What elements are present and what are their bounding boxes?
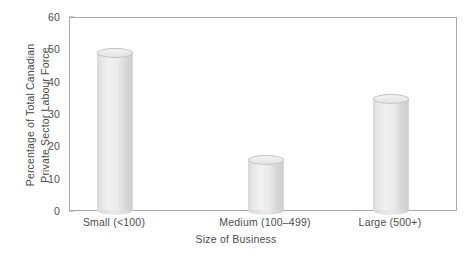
x-tick-label-small: Small (<100) (83, 216, 145, 228)
x-tick-label-large: Large (500+) (359, 216, 422, 228)
bar-medium (248, 155, 284, 210)
x-axis-title: Size of Business (0, 233, 472, 245)
y-tick-label-60: 60 (16, 11, 60, 23)
x-tick-label-medium: Medium (100–499) (219, 216, 310, 228)
y-tick-label-30: 30 (16, 108, 60, 120)
y-tick-label-50: 50 (16, 43, 60, 55)
bar-small (97, 48, 133, 210)
bar-medium-body (248, 160, 284, 210)
y-tick-label-10: 10 (16, 173, 60, 185)
y-tick-label-40: 40 (16, 76, 60, 88)
plot-area (69, 17, 457, 211)
bar-large-cap (373, 94, 409, 104)
bar-large (373, 94, 409, 210)
y-tick-label-0: 0 (16, 205, 60, 217)
y-tick-label-20: 20 (16, 140, 60, 152)
bar-large-body (373, 99, 409, 210)
bar-chart: Percentage of Total Canadian Private Sec… (0, 0, 472, 258)
bar-small-body (97, 53, 133, 210)
bar-medium-cap (248, 155, 284, 165)
